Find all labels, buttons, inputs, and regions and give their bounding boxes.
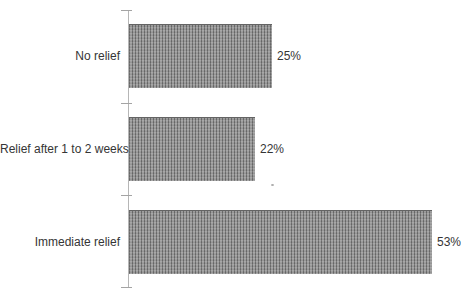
category-label: No relief — [0, 49, 120, 63]
bar — [129, 210, 432, 274]
bar-chart: No relief25%Relief after 1 to 2 weeks22%… — [0, 0, 461, 307]
value-label: 22% — [260, 142, 284, 156]
scan-artifact-dot — [271, 184, 274, 186]
value-label: 25% — [277, 49, 301, 63]
axis-tick — [121, 103, 132, 104]
axis-tick — [121, 195, 132, 196]
axis-tick — [121, 10, 132, 11]
axis-tick — [121, 287, 132, 288]
bar — [129, 24, 272, 88]
bar — [129, 117, 255, 181]
category-label: Immediate relief — [0, 235, 120, 249]
value-label: 53% — [437, 235, 461, 249]
category-label: Relief after 1 to 2 weeks — [0, 142, 120, 156]
